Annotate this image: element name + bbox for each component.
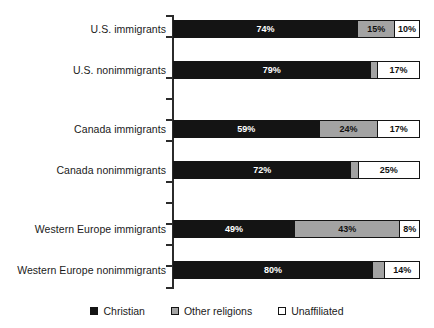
segment-value-label: 10% — [398, 24, 416, 34]
segment-value-label: 17% — [390, 124, 408, 134]
bar-row: Canada nonimmigrants72%25% — [0, 159, 434, 181]
bar-row-label: Canada nonimmigrants — [0, 159, 166, 181]
segment-value-label: 72% — [253, 165, 271, 175]
legend-swatch-icon — [171, 307, 179, 315]
axis-tick — [166, 181, 173, 183]
axis-tick — [166, 140, 173, 142]
segment-value-label: 43% — [338, 224, 356, 234]
segment-value-label: 14% — [393, 265, 411, 275]
segment-value-label: 74% — [257, 24, 275, 34]
bar-segment[interactable]: 14% — [384, 262, 419, 278]
axis-tick — [166, 202, 173, 204]
plot-area: U.S. immigrants74%15%10%U.S. nonimmigran… — [0, 0, 434, 296]
legend-item[interactable]: Christian — [90, 305, 144, 317]
legend-item-label: Unaffiliated — [291, 305, 343, 317]
segment-value-label: 8% — [403, 224, 416, 234]
segment-value-label: 79% — [263, 65, 281, 75]
axis-tick — [166, 98, 173, 100]
bar-row: U.S. nonimmigrants79%17% — [0, 59, 434, 81]
stacked-bar[interactable]: 49%43%8% — [173, 220, 420, 238]
bar-segment[interactable]: 24% — [319, 121, 378, 137]
segment-value-label: 80% — [264, 265, 282, 275]
bar-row-label: Western Europe immigrants — [0, 218, 166, 240]
bar-segment[interactable]: 25% — [358, 162, 419, 178]
bar-segment[interactable]: 17% — [377, 121, 419, 137]
bar-segment[interactable]: 72% — [174, 162, 350, 178]
segment-value-label: 59% — [237, 124, 255, 134]
bar-row: Canada immigrants59%24%17% — [0, 118, 434, 140]
bar-segment[interactable]: 59% — [174, 121, 319, 137]
legend-item[interactable]: Unaffiliated — [278, 305, 343, 317]
bar-segment[interactable]: 49% — [174, 221, 294, 237]
segment-value-label: 17% — [389, 65, 407, 75]
axis-tick — [166, 15, 173, 17]
bar-row: Western Europe immigrants49%43%8% — [0, 218, 434, 240]
axis-tick — [166, 287, 173, 289]
bar-segment[interactable] — [350, 162, 357, 178]
bar-row-label: Western Europe nonimmigrants — [0, 259, 166, 281]
bar-segment[interactable] — [372, 262, 384, 278]
chart-legend: ChristianOther religionsUnaffiliated — [0, 300, 434, 322]
bar-row: U.S. immigrants74%15%10% — [0, 18, 434, 40]
stacked-bar[interactable]: 79%17% — [173, 61, 420, 79]
stacked-bar[interactable]: 80%14% — [173, 261, 420, 279]
segment-value-label: 49% — [225, 224, 243, 234]
legend-swatch-icon — [278, 307, 286, 315]
bar-segment[interactable]: 15% — [357, 21, 394, 37]
stacked-bar[interactable]: 74%15%10% — [173, 20, 420, 38]
legend-swatch-icon — [90, 307, 98, 315]
bar-row-label: Canada immigrants — [0, 118, 166, 140]
segment-value-label: 25% — [380, 165, 398, 175]
segment-value-label: 15% — [367, 24, 385, 34]
bar-segment[interactable]: 74% — [174, 21, 357, 37]
bar-segment[interactable]: 80% — [174, 262, 372, 278]
bar-segment[interactable]: 79% — [174, 62, 370, 78]
axis-tick — [166, 244, 173, 246]
bar-row-label: U.S. nonimmigrants — [0, 59, 166, 81]
bar-segment[interactable]: 43% — [294, 221, 399, 237]
bar-row-label: U.S. immigrants — [0, 18, 166, 40]
legend-item-label: Christian — [103, 305, 144, 317]
legend-item[interactable]: Other religions — [171, 305, 252, 317]
bar-row: Western Europe nonimmigrants80%14% — [0, 259, 434, 281]
stacked-bar[interactable]: 59%24%17% — [173, 120, 420, 138]
stacked-bar-chart: U.S. immigrants74%15%10%U.S. nonimmigran… — [0, 0, 434, 328]
bar-segment[interactable]: 8% — [399, 221, 419, 237]
stacked-bar[interactable]: 72%25% — [173, 161, 420, 179]
bar-segment[interactable]: 10% — [394, 21, 419, 37]
segment-value-label: 24% — [339, 124, 357, 134]
bar-segment[interactable]: 17% — [377, 62, 419, 78]
legend-item-label: Other religions — [184, 305, 252, 317]
bar-segment[interactable] — [370, 62, 377, 78]
category-axis-line — [172, 15, 174, 289]
